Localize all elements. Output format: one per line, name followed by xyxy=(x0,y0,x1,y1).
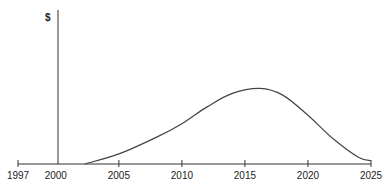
chart: $ 1997200020052010201520202025 xyxy=(0,0,386,192)
data-line xyxy=(85,88,371,164)
y-axis-label: $ xyxy=(45,12,51,23)
x-ticks: 1997200020052010201520202025 xyxy=(7,160,383,181)
x-tick-label: 2020 xyxy=(297,170,320,181)
x-tick-label: 2000 xyxy=(45,170,68,181)
x-tick-label: 2025 xyxy=(360,170,383,181)
x-tick-label: 2010 xyxy=(171,170,194,181)
x-tick-label: 2015 xyxy=(234,170,257,181)
x-tick-label: 1997 xyxy=(7,170,30,181)
x-tick-label: 2005 xyxy=(108,170,131,181)
